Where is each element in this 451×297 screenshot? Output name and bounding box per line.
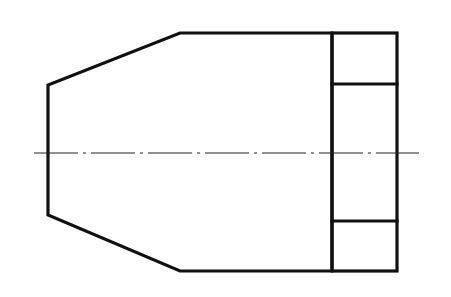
technical-drawing (0, 0, 451, 297)
end-flange-block (332, 33, 397, 271)
drawing-canvas (0, 0, 451, 297)
chamfered-body-outline (48, 33, 332, 271)
